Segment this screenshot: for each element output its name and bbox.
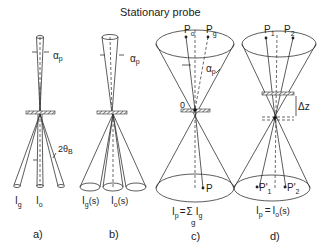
specimen-slab <box>97 111 127 114</box>
sum-subscript: g <box>191 218 195 227</box>
panel-a: αp 2θB Ig Io a) <box>14 36 74 241</box>
panel-c: Po Pg αp 0 P Ip=ΣIg g c) <box>156 24 234 242</box>
diffraction-diagram: Stationary probe αp 2θB Ig Io a) <box>0 0 325 251</box>
beam-label-ig-s: Ig(s) <box>82 195 99 209</box>
caption-b: b) <box>109 228 119 240</box>
specimen-slab-shifted <box>262 92 294 95</box>
origin-label: 0 <box>180 100 185 110</box>
beam-label-ig: Ig <box>15 195 22 209</box>
formula-c: Ip=ΣIg <box>172 206 203 220</box>
point-p-label: P <box>206 183 213 194</box>
point-p1-label: P1 <box>264 24 275 37</box>
caption-d: d) <box>270 230 280 242</box>
caption-c: c) <box>191 230 200 242</box>
panel-b: αp Ig(s) Io(s) b) <box>80 35 146 241</box>
specimen-slab <box>26 111 55 114</box>
alpha-label: αp <box>53 50 63 63</box>
formula-d: Ip=Io(s) <box>256 205 290 219</box>
point-p1-prime-label: P'1 <box>259 182 272 195</box>
beam-label-io-s: Io(s) <box>111 195 128 208</box>
alpha-label: αp <box>130 53 140 66</box>
alpha-label: αp <box>206 63 216 76</box>
point-p2-prime-label: P'2 <box>287 182 300 195</box>
point-po-label: Po <box>184 24 195 37</box>
panel-d: P1 P2 Δz P'1 P'2 Ip=Io(s) d) <box>234 24 316 242</box>
beam-label-io: Io <box>36 195 43 208</box>
delta-z-label: Δz <box>298 101 310 112</box>
point-p2-label: P2 <box>284 24 295 37</box>
diagram-title: Stationary probe <box>120 6 201 18</box>
caption-a: a) <box>33 228 43 240</box>
bragg-angle-label: 2θB <box>58 144 73 155</box>
